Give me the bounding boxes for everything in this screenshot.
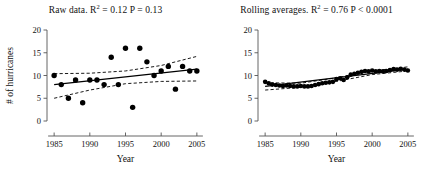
plot-area-rolling-averages: 0510152019851990199520002005Year [211, 0, 422, 175]
data-point [151, 73, 156, 78]
x-tick-label: 1995 [117, 139, 134, 149]
data-point [80, 100, 85, 105]
y-tick-label: 10 [33, 71, 42, 81]
data-point [173, 86, 178, 91]
x-axis-title: Year [117, 154, 135, 164]
x-tick-label: 1995 [328, 139, 345, 149]
data-point [101, 82, 106, 87]
y-tick-label: 15 [244, 48, 253, 58]
hurricane-regression-figure: Raw data. R2 = 0.12 P = 0.13 05101520# o… [0, 0, 422, 175]
x-tick-label: 2005 [399, 139, 416, 149]
data-point [144, 59, 149, 64]
data-point [59, 82, 64, 87]
chart-panel-rolling-averages: Rolling averages. R2 = 0.76 P < 0.0001 0… [211, 0, 422, 175]
data-point [180, 64, 185, 69]
x-tick-label: 2000 [153, 139, 170, 149]
x-tick-label: 1990 [292, 139, 309, 149]
data-point [158, 68, 163, 73]
y-tick-label: 20 [244, 25, 253, 35]
data-point [194, 68, 199, 73]
y-tick-label: 5 [37, 93, 41, 103]
data-point [73, 77, 78, 82]
x-tick-label: 2005 [188, 139, 205, 149]
x-tick-label: 1985 [46, 139, 63, 149]
data-point [66, 96, 71, 101]
y-tick-label: 5 [248, 93, 252, 103]
y-tick-label: 20 [33, 25, 42, 35]
data-point [116, 82, 121, 87]
chart-panel-raw-data: Raw data. R2 = 0.12 P = 0.13 05101520# o… [0, 0, 211, 175]
y-tick-label: 10 [244, 71, 253, 81]
data-point [130, 105, 135, 110]
data-point [109, 55, 114, 60]
x-axis-title: Year [328, 154, 346, 164]
data-point [187, 68, 192, 73]
data-point [166, 64, 171, 69]
data-point [137, 46, 142, 51]
x-tick-label: 1990 [81, 139, 98, 149]
data-point [87, 77, 92, 82]
data-point [94, 77, 99, 82]
data-point [406, 68, 411, 73]
data-point [123, 46, 128, 51]
y-tick-label: 0 [37, 116, 41, 126]
data-point [51, 73, 56, 78]
plot-area-raw-data: 05101520# of hurricanes19851990199520002… [0, 0, 211, 175]
y-tick-label: 0 [248, 116, 252, 126]
x-tick-label: 2000 [364, 139, 381, 149]
y-axis-title: # of hurricanes [5, 47, 15, 104]
y-tick-label: 15 [33, 48, 42, 58]
x-tick-label: 1985 [257, 139, 274, 149]
